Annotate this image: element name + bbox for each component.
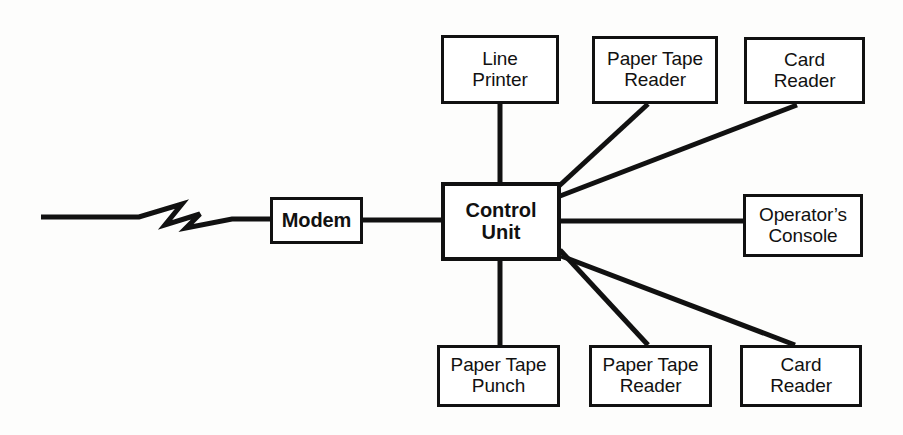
node-paper-tape-reader-top[interactable]: Paper Tape Reader [592, 36, 718, 104]
node-paper-tape-reader-bottom[interactable]: Paper Tape Reader [589, 345, 712, 407]
node-paper-tape-punch-label: Paper Tape Punch [449, 355, 549, 396]
node-line-printer[interactable]: Line Printer [441, 35, 559, 104]
node-card-reader-bottom-label: Card Reader [768, 355, 834, 396]
link-control-unit-paper-tape-reader-top [559, 104, 648, 186]
node-card-reader-top[interactable]: Card Reader [744, 37, 865, 104]
node-control-unit[interactable]: Control Unit [441, 182, 561, 261]
node-paper-tape-reader-top-label: Paper Tape Reader [605, 49, 705, 90]
telephone-line-with-lightning-bolt [41, 204, 270, 228]
node-control-unit-label: Control Unit [463, 200, 538, 243]
node-operators-console-label: Operator’s Console [757, 205, 849, 246]
node-paper-tape-reader-bottom-label: Paper Tape Reader [601, 355, 701, 396]
link-control-unit-paper-tape-reader-bottom [560, 250, 648, 345]
node-paper-tape-punch[interactable]: Paper Tape Punch [437, 345, 560, 407]
node-line-printer-label: Line Printer [470, 49, 529, 90]
node-card-reader-bottom[interactable]: Card Reader [740, 345, 862, 407]
node-card-reader-top-label: Card Reader [772, 50, 838, 91]
link-control-unit-card-reader-bottom [561, 256, 795, 345]
node-modem[interactable]: Modem [270, 197, 363, 244]
node-modem-label: Modem [280, 210, 354, 232]
diagram-canvas: Line Printer Paper Tape Reader Card Read… [0, 0, 903, 435]
node-operators-console[interactable]: Operator’s Console [743, 194, 863, 257]
